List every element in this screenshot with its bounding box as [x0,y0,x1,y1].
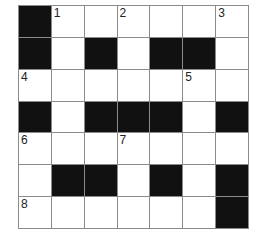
answer-cell[interactable] [183,197,216,229]
block-cell [85,102,118,134]
block-cell [216,102,249,134]
answer-cell[interactable]: 3 [216,6,249,38]
answer-cell[interactable] [150,6,183,38]
block-cell [150,38,183,70]
answer-cell[interactable] [183,102,216,134]
answer-cell[interactable] [52,133,85,165]
answer-cell[interactable] [85,70,118,102]
answer-cell[interactable] [118,38,151,70]
answer-cell[interactable] [150,133,183,165]
answer-cell[interactable] [183,133,216,165]
crossword-grid: 12345678 [18,5,249,229]
answer-cell[interactable] [52,70,85,102]
answer-cell[interactable] [216,70,249,102]
block-cell [19,102,52,134]
answer-cell[interactable] [52,38,85,70]
answer-cell[interactable] [85,133,118,165]
answer-cell[interactable] [216,38,249,70]
block-cell [150,102,183,134]
block-cell [216,197,249,229]
answer-cell[interactable] [216,133,249,165]
block-cell [216,165,249,197]
answer-cell[interactable]: 8 [19,197,52,229]
answer-cell[interactable] [118,165,151,197]
block-cell [150,165,183,197]
answer-cell[interactable] [183,6,216,38]
answer-cell[interactable] [183,165,216,197]
block-cell [52,165,85,197]
answer-cell[interactable] [52,197,85,229]
clue-number: 2 [120,7,127,19]
clue-number: 4 [21,71,28,83]
block-cell [19,6,52,38]
clue-number: 6 [21,134,28,146]
answer-cell[interactable] [150,70,183,102]
answer-cell[interactable]: 1 [52,6,85,38]
clue-number: 7 [120,134,127,146]
block-cell [118,102,151,134]
clue-number: 5 [185,71,192,83]
clue-number: 1 [54,7,61,19]
block-cell [85,165,118,197]
block-cell [19,38,52,70]
answer-cell[interactable] [52,102,85,134]
answer-cell[interactable]: 7 [118,133,151,165]
answer-cell[interactable] [150,197,183,229]
answer-cell[interactable] [118,197,151,229]
answer-cell[interactable] [85,197,118,229]
answer-cell[interactable] [85,6,118,38]
answer-cell[interactable]: 6 [19,133,52,165]
clue-number: 8 [21,198,28,210]
block-cell [183,38,216,70]
clue-number: 3 [218,7,225,19]
answer-cell[interactable]: 4 [19,70,52,102]
answer-cell[interactable]: 2 [118,6,151,38]
answer-cell[interactable]: 5 [183,70,216,102]
answer-cell[interactable] [19,165,52,197]
answer-cell[interactable] [118,70,151,102]
block-cell [85,38,118,70]
